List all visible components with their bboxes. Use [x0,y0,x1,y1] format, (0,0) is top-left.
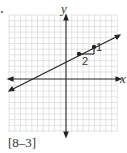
run-label: 2 [82,55,88,67]
x-axis-label: x [120,71,126,87]
line-arrow-icon [9,87,14,91]
y-axis-label: y [61,1,67,17]
grid [9,15,117,132]
line-arrow-icon [115,35,120,39]
axes [8,15,121,137]
rise-label: 1 [96,41,102,53]
figure-caption: [8–3] [8,135,36,151]
coordinate-plane [0,0,127,153]
y-axis-down-arrow-icon [64,132,68,137]
